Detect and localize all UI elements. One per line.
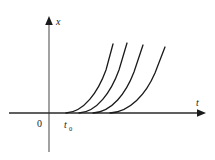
t-axis-label: t [196,97,199,108]
growth-curve-1 [66,44,113,113]
right-arrow-icon [197,109,206,116]
physics-graph: x t 0 t 0 [0,0,215,160]
up-arrow-icon [45,16,53,25]
growth-curve-3 [93,45,143,113]
growth-curve-4 [110,47,165,113]
figure-container: x t 0 t 0 [0,0,215,160]
origin-label: 0 [37,118,42,129]
x-axis-label: x [55,16,61,27]
t0-label: t [64,119,67,130]
t0-subscript: 0 [69,125,72,132]
